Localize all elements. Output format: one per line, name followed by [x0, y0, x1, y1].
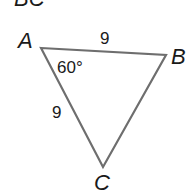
- angle-a-measure: 60°: [57, 59, 83, 76]
- side-ab-length: 9: [100, 30, 109, 47]
- side-ac-length: 9: [52, 104, 61, 121]
- vertex-label-a: A: [18, 30, 33, 52]
- vertex-label-b: B: [171, 46, 186, 68]
- cropped-heading-text: BC: [14, 0, 45, 10]
- triangle-diagram: BC A B C 9 9 60°: [0, 0, 196, 194]
- vertex-label-c: C: [94, 172, 110, 194]
